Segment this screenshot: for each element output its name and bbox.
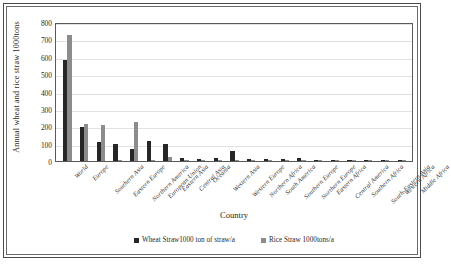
chart-legend: Wheat Straw1000 ton of straw/aRice Straw…: [55, 236, 413, 244]
bar-group: [193, 24, 210, 161]
bar: [151, 160, 155, 161]
bar-group: [343, 24, 360, 161]
bar: [134, 122, 138, 161]
bar-group: [310, 24, 327, 161]
plot-area: [55, 23, 413, 162]
bar: [235, 160, 239, 161]
bar: [268, 160, 272, 161]
bar: [113, 144, 117, 161]
bar-group: [393, 24, 410, 161]
bar-group: [143, 24, 160, 161]
y-axis-tick-label: 700: [28, 36, 52, 45]
bar-group: [243, 24, 260, 161]
x-axis-tick-label: Europe: [90, 163, 109, 182]
bar-group: [126, 24, 143, 161]
bar: [402, 160, 406, 161]
y-axis-title: Annual wheat and rice straw 1000tons: [12, 12, 26, 162]
bar: [285, 160, 289, 161]
legend-entry: Wheat Straw1000 ton of straw/a: [134, 236, 235, 244]
bar-group: [76, 24, 93, 161]
bar: [218, 160, 222, 161]
y-axis-tick-label: 800: [28, 19, 52, 28]
bar-group: [327, 24, 344, 161]
bar-group: [377, 24, 394, 161]
bar: [385, 160, 389, 161]
y-axis-tick-label: 200: [28, 123, 52, 132]
y-axis-tick-labels: 0100200300400500600700800: [28, 23, 52, 162]
y-axis-tick-label: 0: [28, 158, 52, 167]
y-axis-tick-label: 300: [28, 105, 52, 114]
bar: [101, 125, 105, 161]
bar: [184, 160, 188, 161]
bars-layer: [56, 24, 412, 161]
y-axis-tick-label: 400: [28, 88, 52, 97]
square-marker-icon: [134, 238, 139, 243]
bar-group: [59, 24, 76, 161]
bar-group: [360, 24, 377, 161]
figure-frame: Annual wheat and rice straw 1000tons 010…: [3, 3, 421, 258]
legend-entry: Rice Straw 1000tons/a: [261, 236, 334, 244]
y-axis-tick-label: 500: [28, 71, 52, 80]
bar-group: [209, 24, 226, 161]
bar: [118, 160, 122, 161]
bar: [168, 157, 172, 161]
bar-group: [92, 24, 109, 161]
bar: [318, 160, 322, 161]
bar-group: [176, 24, 193, 161]
y-axis-tick-label: 600: [28, 53, 52, 62]
bar: [84, 124, 88, 161]
bar-group: [260, 24, 277, 161]
x-axis-tick-labels: WorldEuropeSouthern AsiaEastern EuropeNo…: [55, 163, 413, 215]
bar: [335, 160, 339, 161]
bar: [201, 160, 205, 161]
bar: [368, 160, 372, 161]
bar-group: [276, 24, 293, 161]
bar-group: [293, 24, 310, 161]
x-axis-tick-label: World: [72, 163, 88, 179]
bar: [352, 160, 356, 161]
legend-label: Rice Straw 1000tons/a: [269, 236, 334, 244]
bar: [67, 35, 71, 161]
square-marker-icon: [261, 238, 266, 243]
bar: [147, 141, 151, 161]
legend-label: Wheat Straw1000 ton of straw/a: [142, 236, 235, 244]
bar-group: [159, 24, 176, 161]
bar-group: [226, 24, 243, 161]
y-axis-tick-label: 100: [28, 140, 52, 149]
bar: [301, 160, 305, 161]
bar: [251, 160, 255, 161]
bar-group: [109, 24, 126, 161]
x-axis-title: Country: [55, 210, 413, 220]
